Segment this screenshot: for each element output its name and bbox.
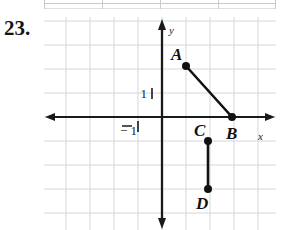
segment-AB <box>186 66 232 117</box>
x-axis-tick-label: − 1 <box>120 123 137 138</box>
top-table-fragment <box>44 0 276 9</box>
x-axis-arrow-right <box>265 113 275 121</box>
point-labels: ABCD <box>170 45 237 213</box>
y-axis-label: y <box>168 24 174 36</box>
fragment-vline <box>44 0 45 9</box>
exercise-number: 23. <box>4 18 30 39</box>
fragment-vline <box>218 0 219 9</box>
fragment-vline <box>102 0 103 9</box>
graph-svg: 1− 1 ABCD y x <box>44 17 276 230</box>
point-d <box>204 185 212 193</box>
x-axis-arrow-left <box>45 113 55 121</box>
point-a <box>182 62 190 70</box>
grid-lines <box>44 17 276 230</box>
coordinate-graph: 1− 1 ABCD y x <box>44 17 276 230</box>
axes: 1− 1 <box>45 19 275 229</box>
point-label-d: D <box>195 194 208 213</box>
point-b <box>228 113 236 121</box>
y-axis-tick-label: 1 <box>141 86 148 101</box>
fragment-vline <box>275 0 276 9</box>
y-axis-arrow-down <box>158 218 166 229</box>
x-axis-label: x <box>257 130 263 142</box>
point-label-b: B <box>225 124 237 143</box>
point-label-c: C <box>194 121 206 140</box>
fragment-vline <box>160 0 161 9</box>
point-label-a: A <box>170 45 182 64</box>
